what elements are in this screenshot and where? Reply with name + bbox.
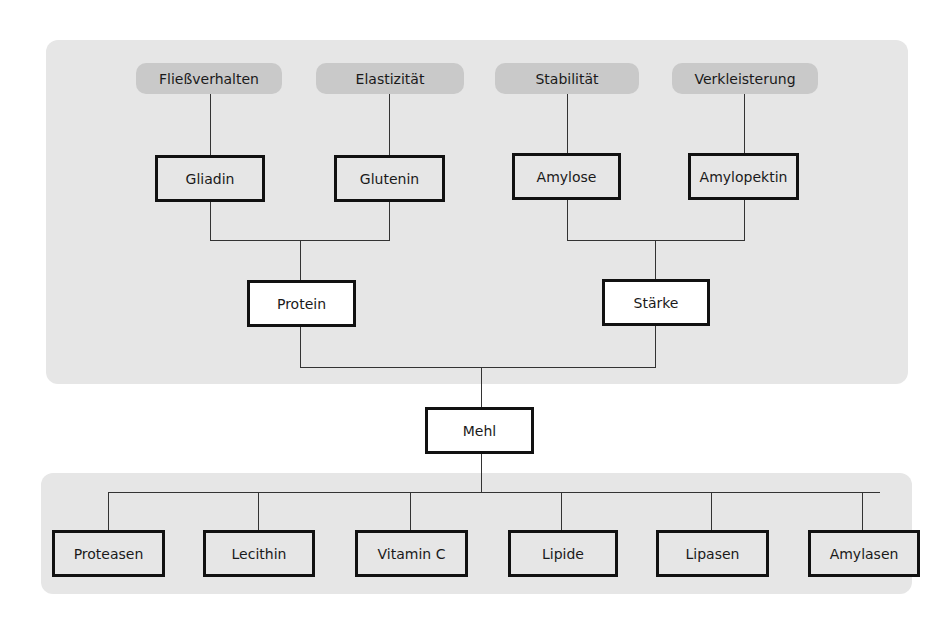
additive-label: Amylasen <box>830 546 899 562</box>
connector <box>481 367 482 407</box>
property-label: Elastizität <box>356 71 425 87</box>
connector <box>210 94 211 155</box>
connector <box>300 240 301 280</box>
additive-vitamin-c: Vitamin C <box>355 530 468 577</box>
component-glutenin: Glutenin <box>334 155 445 202</box>
additive-proteasen: Proteasen <box>52 530 165 577</box>
additive-lipide: Lipide <box>508 530 618 577</box>
component-gliadin: Gliadin <box>155 155 265 202</box>
connector <box>655 326 656 367</box>
component-label: Amylopektin <box>700 169 788 185</box>
property-stabilitaet: Stabilität <box>495 63 639 94</box>
connector <box>108 492 109 530</box>
component-label: Gliadin <box>186 171 235 187</box>
property-label: Verkleisterung <box>694 71 795 87</box>
root-label: Mehl <box>463 423 496 439</box>
additive-label: Lipasen <box>686 546 740 562</box>
additive-label: Proteasen <box>74 546 144 562</box>
connector <box>561 492 562 530</box>
connector <box>567 240 745 241</box>
group-protein: Protein <box>247 280 356 327</box>
connector <box>300 367 656 368</box>
property-label: Fließverhalten <box>159 71 259 87</box>
additive-amylasen: Amylasen <box>808 530 920 577</box>
connector <box>567 94 568 155</box>
connector <box>389 202 390 240</box>
additive-lecithin: Lecithin <box>203 530 315 577</box>
connector <box>744 200 745 240</box>
component-label: Amylose <box>537 169 597 185</box>
property-elastizitaet: Elastizität <box>316 63 464 94</box>
connector <box>410 492 411 530</box>
additive-lipasen: Lipasen <box>656 530 769 577</box>
root-mehl: Mehl <box>425 407 534 454</box>
connector <box>210 202 211 240</box>
property-label: Stabilität <box>535 71 598 87</box>
component-amylose: Amylose <box>512 153 621 200</box>
connector <box>744 94 745 155</box>
connector <box>389 94 390 155</box>
component-amylopektin: Amylopektin <box>688 153 799 200</box>
connector <box>655 240 656 280</box>
connector <box>862 492 863 530</box>
group-label: Stärke <box>634 295 679 311</box>
connector <box>711 492 712 530</box>
component-label: Glutenin <box>360 171 419 187</box>
property-fliessverhalten: Fließverhalten <box>136 63 282 94</box>
connector <box>567 200 568 240</box>
group-label: Protein <box>277 296 326 312</box>
group-staerke: Stärke <box>602 279 710 326</box>
additive-label: Lecithin <box>232 546 287 562</box>
connector <box>258 492 259 530</box>
additive-label: Lipide <box>542 546 584 562</box>
connector <box>108 492 880 493</box>
additive-label: Vitamin C <box>378 546 446 562</box>
connector <box>300 327 301 367</box>
property-verkleisterung: Verkleisterung <box>672 63 818 94</box>
connector <box>481 454 482 492</box>
